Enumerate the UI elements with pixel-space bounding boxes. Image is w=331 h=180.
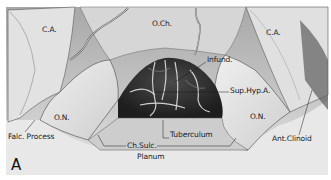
label-chiasmatic-sulcus: Ch.Sulc. [127,142,157,150]
panel-letter: A [11,156,21,174]
label-falciform-process: Falc. Process [8,133,54,141]
label-planum: Planum [137,153,164,161]
label-anterior-clinoid: Ant.Clinoid [272,135,312,143]
label-tuberculum: Tuberculum [170,131,213,139]
label-optic-chiasm: O.Ch. [152,20,172,28]
label-infundibulum: Infund. [207,56,233,64]
label-optic-nerve-left: O.N. [54,114,70,122]
label-superior-hypophyseal-artery: Sup.Hyp.A. [230,87,270,95]
label-carotid-left: C.A. [42,26,57,34]
label-optic-nerve-right: O.N. [250,113,266,121]
anatomical-illustration: C.A. O.Ch. C.A. Infund. Sup.Hyp.A. O.N. … [0,0,331,180]
label-carotid-right: C.A. [266,29,281,37]
